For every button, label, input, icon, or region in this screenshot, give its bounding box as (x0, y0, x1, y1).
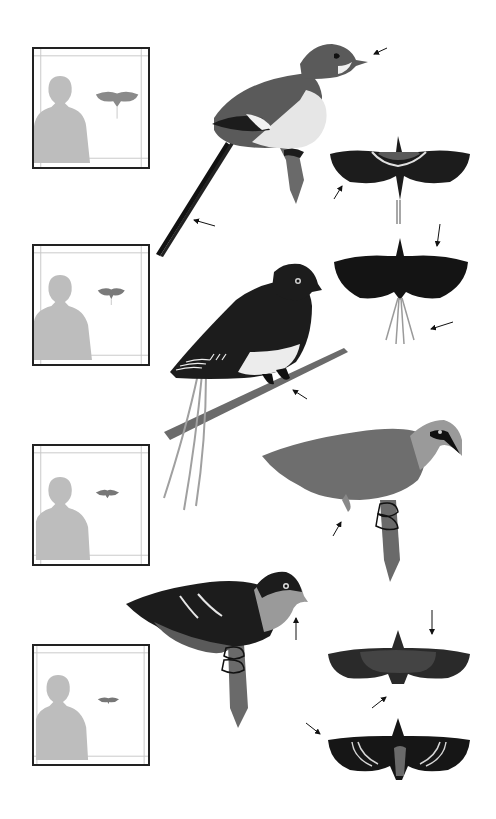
species-4-perched-figure (126, 572, 308, 728)
arrow-icon (431, 322, 453, 329)
bird-illustrations (0, 0, 496, 819)
species-1-perched-figure (156, 44, 368, 257)
arrow-icon (333, 522, 341, 536)
arrow-icon (372, 697, 386, 708)
species-2-flight-figure (334, 238, 468, 344)
species-3-perched-figure (262, 420, 462, 582)
species-4-flight-ventral-figure (328, 718, 470, 780)
arrow-icon (437, 224, 440, 246)
streamer-tail (156, 142, 230, 256)
arrow-icon (293, 390, 307, 399)
illustration-plate (0, 0, 496, 819)
species-1-flight-figure (330, 136, 470, 224)
species-4-flight-dorsal-figure (328, 630, 470, 684)
arrow-icon (306, 723, 320, 734)
arrow-icon (194, 220, 215, 226)
arrow-icon (374, 48, 387, 54)
arrow-icon (334, 186, 342, 199)
